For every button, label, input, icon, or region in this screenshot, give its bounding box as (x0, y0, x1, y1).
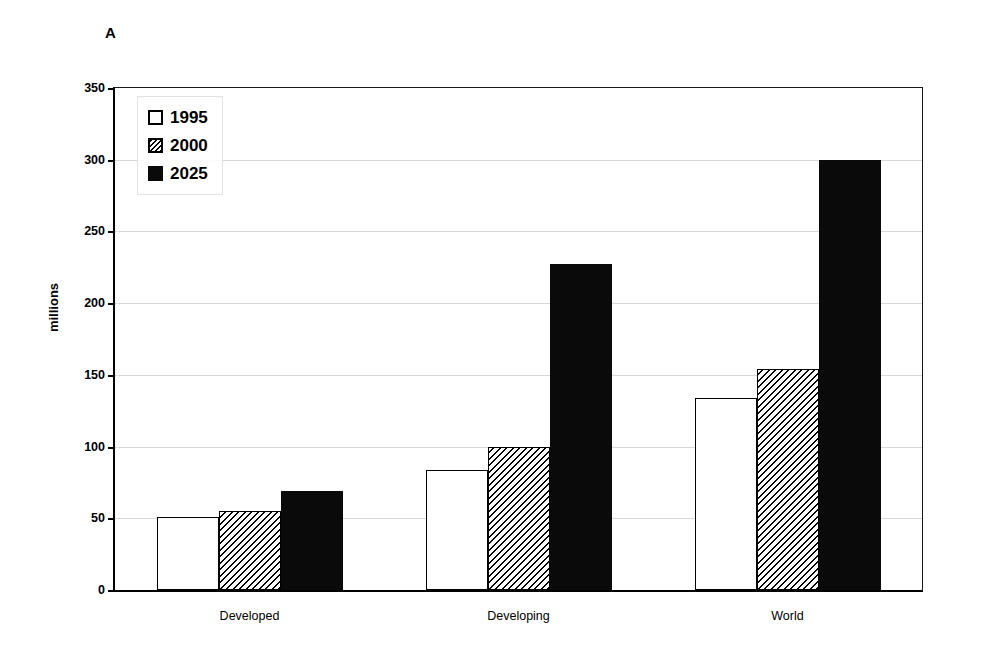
y-axis-tick-label: 350 (84, 81, 105, 95)
bar (695, 398, 757, 590)
x-axis-category-label: Developed (220, 609, 280, 623)
x-axis-category-label: World (771, 609, 803, 623)
y-axis-tick-label: 300 (84, 153, 105, 167)
y-axis-tick (108, 590, 115, 592)
y-axis-tick (108, 447, 115, 449)
y-axis-tick (108, 303, 115, 305)
legend-label: 2025 (170, 165, 208, 182)
panel-label: A (105, 25, 116, 40)
bar (219, 511, 281, 590)
gridline (115, 231, 922, 232)
y-axis-tick (108, 88, 115, 90)
legend-label: 2000 (170, 137, 208, 154)
legend-swatch-icon (148, 166, 163, 181)
bar (426, 470, 488, 590)
bar (757, 369, 819, 590)
bar (281, 491, 343, 590)
plot-area: 050100150200250300350 DevelopedDevelopin… (113, 87, 923, 592)
legend-swatch-icon (148, 110, 163, 125)
y-axis-tick-label: 250 (84, 224, 105, 238)
gridline (115, 160, 922, 161)
y-axis-tick-label: 50 (91, 511, 105, 525)
legend-item[interactable]: 2000 (148, 131, 208, 159)
legend: 199520002025 (137, 96, 223, 195)
legend-item[interactable]: 1995 (148, 103, 208, 131)
y-axis-tick (108, 375, 115, 377)
y-axis-tick-label: 100 (84, 440, 105, 454)
bar (550, 264, 612, 590)
bar (488, 447, 550, 590)
y-axis-tick (108, 160, 115, 162)
figure: A millions 050100150200250300350 Develop… (0, 0, 990, 663)
y-axis-tick-label: 150 (84, 368, 105, 382)
y-axis-tick-label: 0 (98, 583, 105, 597)
y-axis-title: millions (46, 248, 61, 368)
bar (157, 517, 219, 590)
gridline (115, 303, 922, 304)
y-axis-tick-label: 200 (84, 296, 105, 310)
y-axis-tick (108, 231, 115, 233)
legend-item[interactable]: 2025 (148, 159, 208, 187)
legend-label: 1995 (170, 109, 208, 126)
x-axis-category-label: Developing (487, 609, 550, 623)
bar (819, 160, 881, 590)
y-axis-tick (108, 518, 115, 520)
legend-swatch-icon (148, 138, 163, 153)
